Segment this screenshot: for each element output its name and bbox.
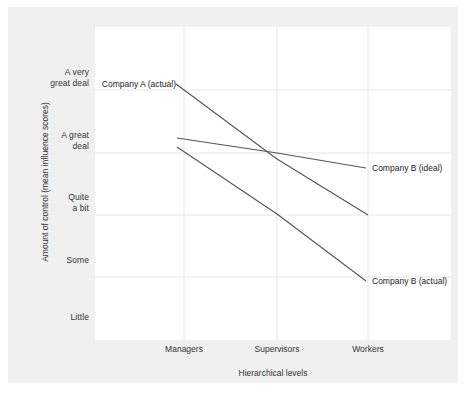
series-label-company-b-ideal: Company B (ideal) — [372, 163, 442, 173]
x-axis-title: Hierarchical levels — [95, 368, 451, 378]
figure-panel: Amount of control (mean influence scores… — [8, 7, 458, 383]
y-tick-line: Some — [15, 255, 89, 266]
x-tick-managers: Managers — [139, 344, 229, 354]
x-tick-supervisors: Supervisors — [232, 344, 322, 354]
y-tick-line: a bit — [15, 203, 89, 214]
series-label-company-b-actual: Company B (actual) — [372, 276, 447, 286]
plot-area: Company A (actual) Company B (ideal) Com… — [95, 27, 451, 340]
y-tick-line: A great — [15, 130, 89, 141]
chart-screenshot: Amount of control (mean influence scores… — [0, 0, 467, 393]
series-line-company-a-actual — [176, 84, 368, 215]
y-tick-little: Little — [15, 312, 89, 323]
y-tick-line: Little — [15, 312, 89, 323]
x-tick-workers: Workers — [323, 344, 413, 354]
y-tick-line: Quite — [15, 192, 89, 203]
y-tick-a-great-deal: A great deal — [15, 130, 89, 151]
y-axis-tick-labels: A very great deal A great deal Quite a b… — [13, 27, 89, 340]
grid-lines — [95, 27, 451, 340]
y-tick-some: Some — [15, 255, 89, 266]
y-tick-line: A very — [15, 67, 89, 78]
plot-svg — [95, 27, 451, 340]
y-tick-line: deal — [15, 141, 89, 152]
series-line-company-b-actual — [177, 147, 366, 281]
x-axis-tick-labels: Managers Supervisors Workers — [95, 344, 451, 358]
series-label-company-a-actual: Company A (actual) — [11, 79, 176, 89]
y-tick-quite-a-bit: Quite a bit — [15, 192, 89, 213]
